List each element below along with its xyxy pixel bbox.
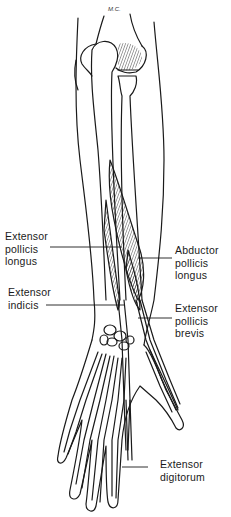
elbow-hatch (118, 43, 142, 71)
label-extensor-pollicis-brevis: Extensor pollicis brevis (175, 302, 218, 340)
label-extensor-digitorum: Extensor digitorum (160, 458, 205, 483)
elbow-condyle-left (81, 44, 96, 76)
label-abductor-pollicis-longus: Abductor pollicis longus (175, 244, 219, 282)
ulna (91, 41, 120, 300)
label-extensor-indicis: Extensor indicis (8, 286, 51, 311)
illustrator-signature: M.C. (108, 6, 121, 12)
forearm-outline-right (144, 22, 164, 345)
carpal-bones (100, 325, 134, 350)
label-extensor-pollicis-longus: Extensor pollicis longus (5, 230, 48, 268)
